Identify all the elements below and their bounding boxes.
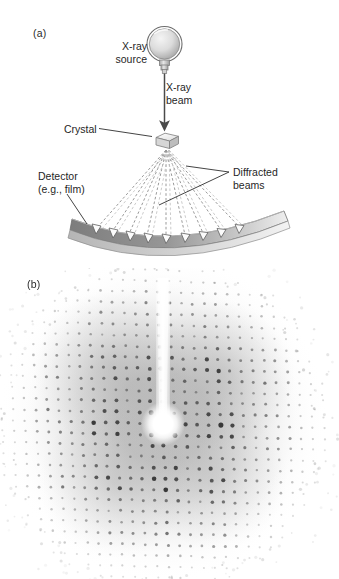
- diffracted-beams-fan-shadow: [101, 150, 244, 237]
- annotation-detector: Detector (e.g., film): [38, 170, 85, 195]
- xray-source-icon: [147, 27, 182, 74]
- detector-leader-line: [67, 194, 87, 224]
- annotation-xray-source: X-ray source: [99, 40, 147, 65]
- annotation-crystal: Crystal: [64, 123, 97, 136]
- detector-film: [68, 211, 290, 256]
- panel-b-diffraction-pattern: [0, 268, 339, 579]
- diffracted-beams-fan: [96, 150, 239, 236]
- diffracted-leader-line-upper: [186, 166, 229, 172]
- panel-a-schematic: (a): [0, 0, 339, 268]
- annotation-xray-beam: X-ray beam: [166, 81, 192, 106]
- crystal-leader-line: [99, 129, 152, 137]
- schematic-drawing: [0, 0, 339, 268]
- figure-container: (a): [0, 0, 339, 579]
- annotation-diffracted-beams: Diffracted beams: [233, 166, 278, 191]
- diffraction-pattern-image: [0, 268, 339, 579]
- panel-b-label: (b): [27, 278, 40, 290]
- crystal-icon: [156, 133, 179, 148]
